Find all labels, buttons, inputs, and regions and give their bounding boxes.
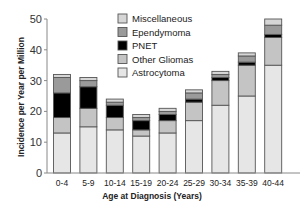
- bar-segment-astrocytoma: [106, 130, 123, 173]
- legend-label: PNET: [132, 40, 158, 51]
- x-tick-label: 30-34: [210, 178, 232, 188]
- bar-segment-pnet: [238, 62, 255, 65]
- legend-swatch: [118, 41, 127, 50]
- legend-swatch: [118, 55, 127, 64]
- y-tick-label: 10: [30, 136, 42, 148]
- legend-item: PNET: [118, 40, 158, 51]
- bar-segment-ependymoma: [133, 118, 150, 121]
- legend-swatch: [118, 14, 127, 23]
- bar-segment-other-gliomas: [265, 37, 282, 65]
- legend-label: Ependymoma: [132, 27, 191, 38]
- y-tick-label: 40: [30, 44, 42, 56]
- bar-segment-miscellaneous: [186, 90, 203, 93]
- bar-segment-astrocytoma: [80, 127, 97, 173]
- bar-segment-ependymoma: [186, 93, 203, 99]
- bar-segment-astrocytoma: [186, 121, 203, 173]
- x-tick-label: 5-9: [82, 178, 95, 188]
- legend-item: Ependymoma: [118, 27, 191, 38]
- legend-label: Miscellaneous: [132, 13, 192, 24]
- y-tick-label: 0: [36, 167, 42, 179]
- bar-segment-pnet: [159, 114, 176, 120]
- bar-segment-miscellaneous: [238, 53, 255, 56]
- legend: MiscellaneousEpendymomaPNETOther Gliomas…: [118, 13, 193, 78]
- x-tick-label: 20-24: [157, 178, 179, 188]
- bar-5-9: [80, 78, 97, 173]
- bar-segment-astrocytoma: [54, 133, 71, 173]
- y-axis: 01020304050: [30, 13, 47, 179]
- legend-item: Other Gliomas: [118, 54, 193, 65]
- bar-segment-other-gliomas: [238, 65, 255, 96]
- y-tick-label: 50: [30, 13, 42, 25]
- bar-segment-ependymoma: [159, 111, 176, 114]
- bar-segment-miscellaneous: [80, 78, 97, 81]
- bar-25-29: [186, 90, 203, 173]
- bar-segment-miscellaneous: [159, 108, 176, 111]
- bar-segment-ependymoma: [80, 81, 97, 87]
- bar-segment-miscellaneous: [54, 74, 71, 77]
- bar-40-44: [265, 19, 282, 173]
- bar-segment-pnet: [186, 99, 203, 102]
- bar-segment-astrocytoma: [238, 96, 255, 173]
- bar-segment-other-gliomas: [80, 108, 97, 126]
- x-axis-title: Age at Diagnosis (Years): [102, 191, 202, 201]
- bar-15-19: [133, 114, 150, 173]
- bar-segment-miscellaneous: [265, 19, 282, 25]
- bar-segment-ependymoma: [54, 78, 71, 93]
- bar-segment-miscellaneous: [106, 99, 123, 102]
- bar-segment-pnet: [212, 78, 229, 81]
- bar-segment-pnet: [106, 105, 123, 117]
- bar-segment-other-gliomas: [212, 81, 229, 106]
- x-tick-label: 35-39: [236, 178, 258, 188]
- y-axis-title: Incidence per Year per Million: [16, 37, 26, 157]
- bars: [54, 19, 282, 173]
- bar-segment-pnet: [54, 93, 71, 118]
- bar-0-4: [54, 74, 71, 173]
- bar-segment-astrocytoma: [133, 136, 150, 173]
- x-axis: 0-45-910-1415-1920-2425-2930-3435-3940-4…: [47, 173, 300, 188]
- x-tick-label: 10-14: [104, 178, 126, 188]
- bar-segment-other-gliomas: [133, 130, 150, 136]
- x-tick-label: 25-29: [183, 178, 205, 188]
- bar-segment-ependymoma: [265, 25, 282, 34]
- x-tick-label: 40-44: [262, 178, 284, 188]
- bar-segment-other-gliomas: [186, 102, 203, 120]
- x-tick-label: 15-19: [130, 178, 152, 188]
- bar-segment-pnet: [80, 87, 97, 109]
- legend-swatch: [118, 68, 127, 77]
- bar-segment-ependymoma: [238, 56, 255, 62]
- y-tick-label: 30: [30, 75, 42, 87]
- bar-segment-pnet: [265, 34, 282, 37]
- x-tick-label: 0-4: [56, 178, 69, 188]
- bar-10-14: [106, 99, 123, 173]
- bar-segment-astrocytoma: [265, 65, 282, 173]
- legend-label: Other Gliomas: [132, 54, 193, 65]
- bar-35-39: [238, 53, 255, 173]
- bar-segment-other-gliomas: [159, 121, 176, 133]
- y-tick-label: 20: [30, 105, 42, 117]
- legend-label: Astrocytoma: [132, 67, 186, 78]
- bar-segment-pnet: [133, 121, 150, 130]
- bar-segment-ependymoma: [106, 102, 123, 105]
- bar-segment-other-gliomas: [54, 118, 71, 133]
- bar-segment-ependymoma: [212, 74, 229, 77]
- bar-segment-miscellaneous: [212, 71, 229, 74]
- bar-segment-astrocytoma: [159, 133, 176, 173]
- legend-item: Miscellaneous: [118, 13, 192, 24]
- stacked-bar-chart: 01020304050 0-45-910-1415-1920-2425-2930…: [0, 0, 305, 212]
- legend-item: Astrocytoma: [118, 67, 186, 78]
- legend-swatch: [118, 28, 127, 37]
- bar-segment-miscellaneous: [133, 114, 150, 117]
- bar-30-34: [212, 71, 229, 173]
- bar-segment-other-gliomas: [106, 118, 123, 130]
- bar-segment-astrocytoma: [212, 105, 229, 173]
- bar-20-24: [159, 108, 176, 173]
